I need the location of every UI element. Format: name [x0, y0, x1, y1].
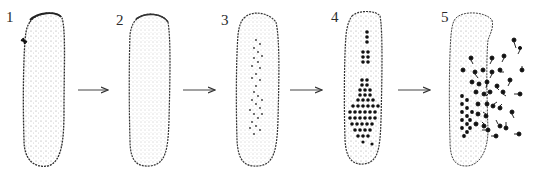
stage-1-cell: [21, 13, 65, 166]
stage-5-cell: [449, 13, 524, 166]
stage-3-cell: [236, 13, 279, 166]
diagram-canvas: [0, 0, 537, 179]
stage-4-cell: [344, 12, 382, 165]
stage-2-cell: [129, 14, 170, 166]
